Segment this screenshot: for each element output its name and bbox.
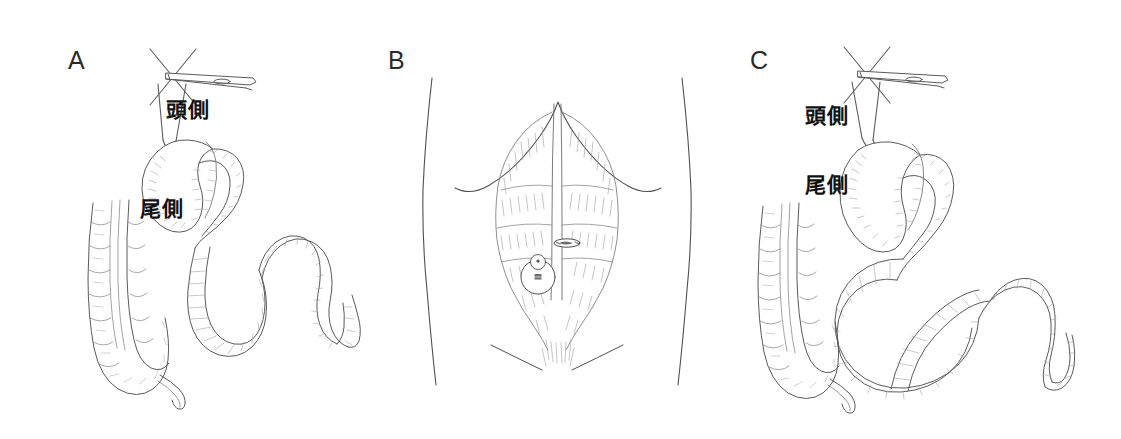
costal-margin: [455, 102, 661, 192]
surgical-forceps-c: [858, 71, 948, 88]
small-bowel-loop-a: [142, 140, 244, 248]
umbilicus: [554, 239, 580, 247]
rectus-abdominis-left: [496, 112, 552, 350]
colon-segment-c: [758, 203, 855, 413]
surgical-forceps-a: [166, 73, 256, 90]
stoma-site-marking: [521, 255, 555, 295]
small-bowel-coils-a: [259, 236, 360, 348]
bowel-caudal-limb-a: [187, 247, 267, 356]
panel-a-label-caudal: 尾側: [140, 199, 184, 220]
rectus-abdominis-right: [562, 112, 618, 350]
suture-threads-c: [844, 47, 890, 151]
panel-b: B: [370, 0, 740, 439]
twisted-bowel-loop-c: [833, 259, 990, 399]
colon-segment-a: [88, 200, 185, 409]
surgical-figure: A: [0, 0, 1121, 439]
panel-c: C: [740, 0, 1121, 439]
panel-a-illustration: [0, 0, 370, 439]
panel-c-label-caudal: 尾側: [805, 175, 849, 196]
small-bowel-coils-c: [979, 278, 1075, 390]
panel-c-illustration: [740, 0, 1121, 439]
tendinous-intersections: [497, 185, 617, 262]
panel-c-label-cranial: 頭側: [805, 106, 849, 127]
torso-outline: [423, 78, 691, 385]
panel-a-label-cranial: 頭側: [166, 100, 210, 121]
panel-a: A: [0, 0, 370, 439]
panel-b-illustration: [370, 0, 740, 439]
